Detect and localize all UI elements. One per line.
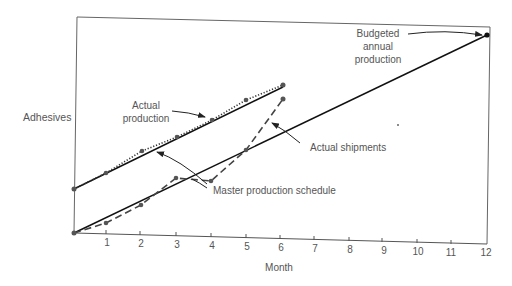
x-tick-4: 4 [209, 240, 215, 251]
mps-annual-line [74, 35, 487, 233]
x-tick-12: 12 [480, 247, 492, 258]
actual-production-arrow-icon [172, 111, 205, 117]
actual-shipments-label: Actual shipments [310, 142, 386, 153]
x-tick-3: 3 [174, 239, 180, 250]
annotation-actual-shipments: Actual shipments [272, 123, 386, 153]
budgeted-endpoint-marker [484, 32, 489, 37]
annotation-actual-production: Actual production [123, 100, 205, 124]
actual-shipments-line [74, 99, 283, 233]
x-tick-8: 8 [347, 244, 353, 255]
x-tick-2: 2 [138, 238, 144, 249]
x-tick-5: 5 [244, 241, 250, 252]
x-tick-9: 9 [381, 245, 387, 256]
y-axis-label: Adhesives [23, 111, 71, 123]
x-tick-11: 11 [446, 247, 457, 258]
actual-shipments-markers [72, 97, 286, 236]
x-axis: 1 2 3 4 5 6 7 8 9 10 11 12 Month [74, 230, 492, 273]
mps-label: Master production schedule [213, 185, 336, 196]
x-tick-1: 1 [104, 237, 110, 248]
budgeted-label-line3: production [355, 54, 402, 65]
x-axis-label: Month [265, 262, 293, 273]
chart: 1 2 3 4 5 6 7 8 9 10 11 12 Month Adhesiv… [0, 0, 512, 286]
budgeted-arrow-icon [408, 32, 482, 35]
x-tick-6: 6 [278, 242, 284, 253]
stray-dot [397, 124, 399, 126]
x-tick-10: 10 [412, 246, 424, 257]
budgeted-label-line2: annual [363, 41, 393, 52]
plot-frame [74, 17, 490, 244]
actual-production-label-line1: Actual [132, 100, 160, 111]
x-tick-7: 7 [312, 243, 318, 254]
annotation-mps: Master production schedule [157, 152, 336, 196]
budgeted-label-line1: Budgeted [357, 28, 400, 39]
actual-production-label-line2: production [123, 113, 170, 124]
